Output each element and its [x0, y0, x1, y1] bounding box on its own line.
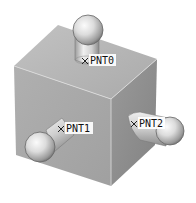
pnt1-label: PNT1	[66, 123, 90, 134]
pnt0-label: PNT0	[90, 55, 114, 66]
cube-diagram: PNT0 PNT1 PNT2	[0, 0, 196, 203]
pnt2-label: PNT2	[139, 118, 163, 129]
diagram-canvas: PNT0 PNT1 PNT2	[0, 0, 196, 203]
